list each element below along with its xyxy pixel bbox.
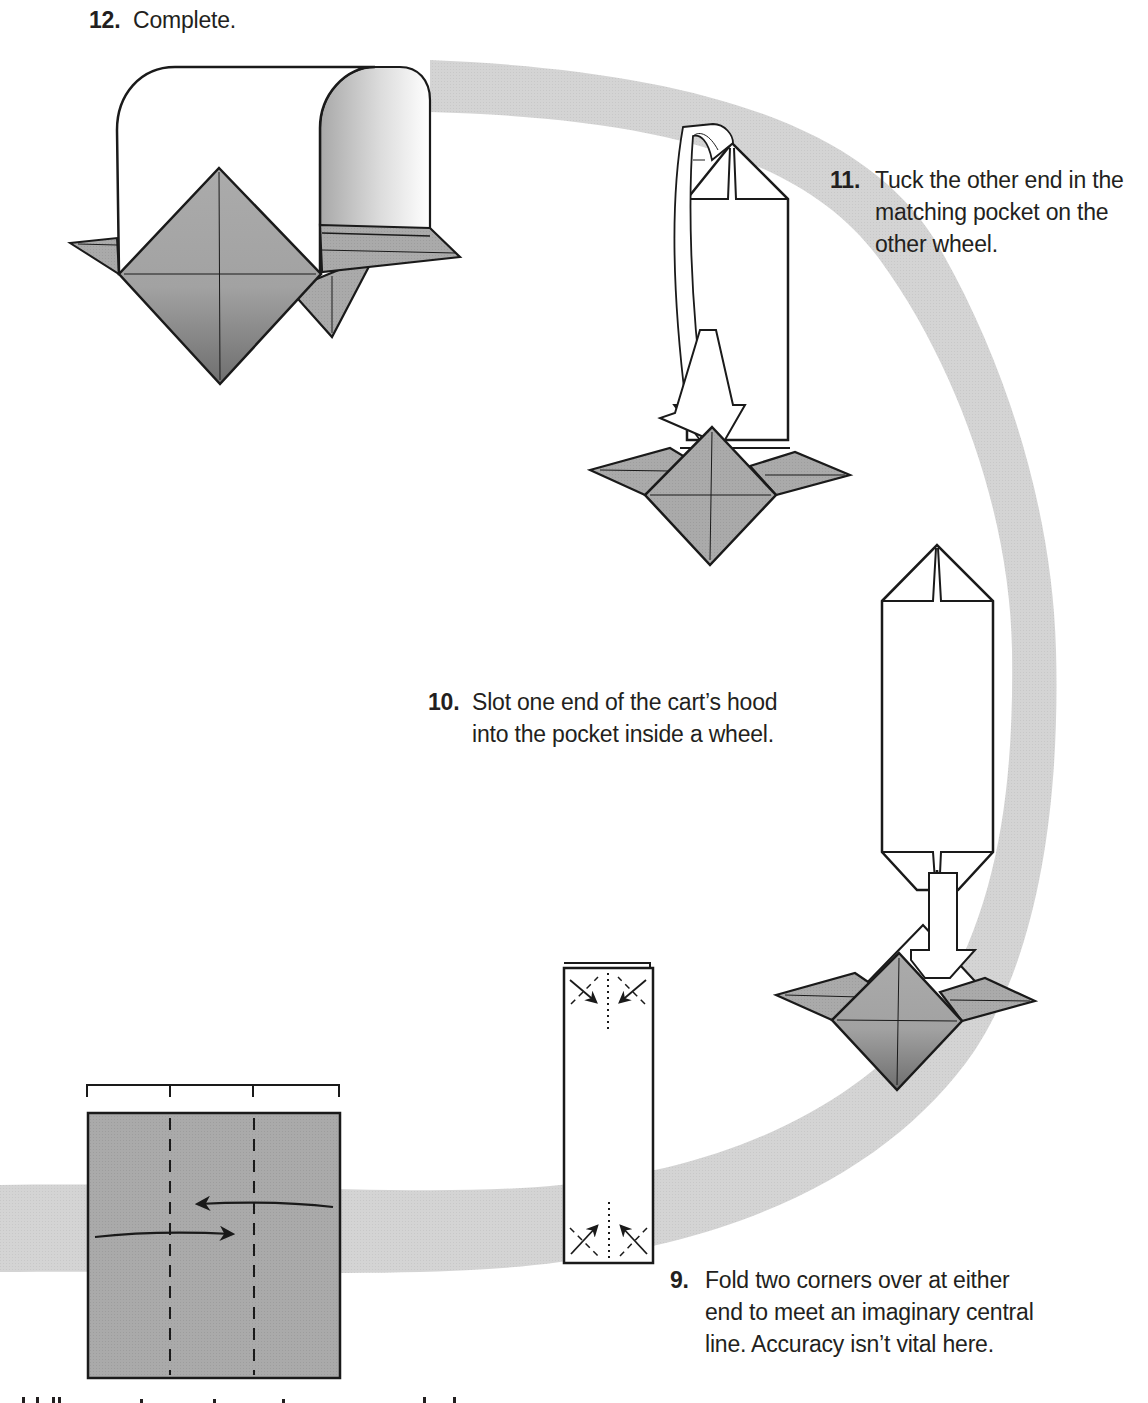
step-text-line: other wheel. bbox=[875, 228, 1124, 260]
step-text-line: Slot one end of the cart’s hood bbox=[472, 686, 777, 718]
step-text-line: matching pocket on the bbox=[875, 196, 1124, 228]
step-text-line: Tuck the other end in the bbox=[875, 164, 1124, 196]
instruction-page: 12. Complete. 11. Tuck the other end in … bbox=[0, 0, 1148, 1403]
step-text-line: line. Accuracy isn’t vital here. bbox=[705, 1328, 1034, 1360]
thirds-ruler bbox=[87, 1085, 339, 1097]
step-text-line: Fold two corners over at either bbox=[705, 1264, 1034, 1296]
figure-step-12-cart bbox=[70, 67, 460, 384]
figure-step-9-strip bbox=[564, 963, 653, 1263]
cut-off-caption-fragments bbox=[22, 1397, 456, 1403]
figure-step-8-square bbox=[87, 1085, 340, 1378]
step-number: 10. bbox=[428, 686, 459, 718]
step-number: 12. bbox=[89, 4, 120, 36]
figure-step-10 bbox=[776, 545, 1035, 1090]
step-text-line: into the pocket inside a wheel. bbox=[472, 718, 777, 750]
step-number: 11. bbox=[830, 164, 860, 196]
step-number: 9. bbox=[670, 1264, 689, 1296]
step-text-line: Complete. bbox=[133, 4, 236, 36]
step-text-line: end to meet an imaginary central bbox=[705, 1296, 1034, 1328]
